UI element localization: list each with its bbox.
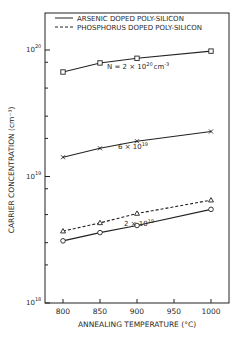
x-tick-label: 1000 (201, 307, 220, 316)
y-tick-label: 1019 (26, 170, 41, 181)
chart: 101810191020 8008509009501000 N = 2 × 10… (0, 0, 244, 338)
x-axis-label: ANNEALING TEMPERATURE (°C) (78, 320, 196, 329)
x-tick-label: 950 (167, 307, 182, 316)
x-axis-ticks: 8008509009501000 (56, 299, 221, 316)
y-axis-ticks: 101810191020 (26, 43, 50, 307)
legend-arsenic-label: ARSENIC DOPED POLY-SILICON (77, 15, 184, 23)
y-axis-label: CARRIER CONCENTRATION (cm⁻³) (7, 107, 16, 234)
legend: ARSENIC DOPED POLY-SILICON PHOSPHORUS DO… (55, 15, 202, 32)
curve-label: N = 2 × 1020cm-3 (107, 61, 169, 72)
y-tick-label: 1020 (26, 43, 41, 54)
x-tick-label: 800 (56, 307, 71, 316)
curve-label: 2 × 1019 (124, 218, 154, 229)
legend-phosphorus-label: PHOSPHORUS DOPED POLY-SILICON (77, 24, 202, 32)
y-tick-label: 1018 (26, 296, 41, 307)
x-tick-label: 900 (130, 307, 145, 316)
annotations: N = 2 × 1020cm-36 × 10192 × 1019 (107, 61, 169, 229)
x-tick-label: 850 (93, 307, 108, 316)
curve-label: 6 × 1019 (118, 141, 148, 152)
